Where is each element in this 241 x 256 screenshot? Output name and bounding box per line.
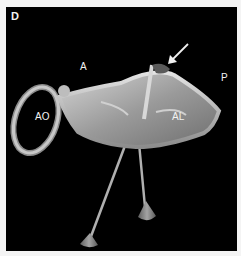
- papillary-muscle-left: [80, 233, 98, 247]
- arrow-annotation: [168, 44, 188, 64]
- papillary-muscle-right: [138, 201, 156, 220]
- chordae-tendineae: [90, 143, 145, 239]
- label-posterior: P: [221, 73, 228, 83]
- label-aorta: AO: [35, 112, 49, 122]
- mitral-valve-3d-render: [6, 7, 237, 251]
- label-anterior-leaflet: AL: [172, 112, 184, 122]
- figure-panel: D A P AO AL: [6, 7, 237, 251]
- panel-letter: D: [11, 10, 19, 22]
- label-anterior: A: [80, 62, 87, 72]
- valve-annulus-surface: [58, 64, 219, 147]
